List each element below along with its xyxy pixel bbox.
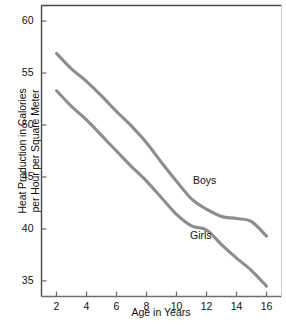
y-tick-label: 60 bbox=[8, 14, 34, 26]
x-tick-label: 12 bbox=[197, 300, 217, 312]
x-tick-label: 4 bbox=[77, 300, 97, 312]
x-tick-label: 2 bbox=[47, 300, 67, 312]
line-chart-plot bbox=[0, 0, 286, 325]
chart-figure: Heat Production in Calories per Hour per… bbox=[0, 0, 286, 325]
series-label-boys: Boys bbox=[193, 174, 216, 186]
x-tick-label: 6 bbox=[107, 300, 127, 312]
y-tick-label: 45 bbox=[8, 170, 34, 182]
y-tick-label: 40 bbox=[8, 222, 34, 234]
x-tick-label: 14 bbox=[227, 300, 247, 312]
y-tick-label: 55 bbox=[8, 66, 34, 78]
chart-background bbox=[0, 0, 286, 325]
y-tick-label: 50 bbox=[8, 118, 34, 130]
x-tick-label: 10 bbox=[167, 300, 187, 312]
y-tick-label: 35 bbox=[8, 274, 34, 286]
x-tick-label: 8 bbox=[137, 300, 157, 312]
x-tick-label: 16 bbox=[257, 300, 277, 312]
series-label-girls: Girls bbox=[190, 229, 212, 241]
